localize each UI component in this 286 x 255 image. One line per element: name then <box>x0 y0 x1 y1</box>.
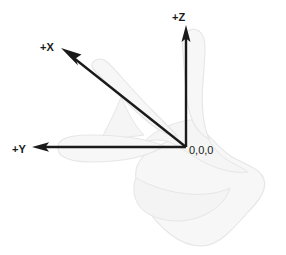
diagram-canvas: +Z +X +Y 0,0,0 <box>0 0 286 255</box>
coordinate-system-diagram: +Z +X +Y 0,0,0 <box>0 0 286 255</box>
axis-label-x: +X <box>40 41 54 53</box>
origin-label: 0,0,0 <box>189 144 213 156</box>
axis-label-z: +Z <box>172 11 185 23</box>
hand-silhouette <box>58 29 265 246</box>
axis-label-y: +Y <box>12 143 26 155</box>
